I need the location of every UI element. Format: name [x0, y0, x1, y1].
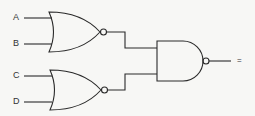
- nor-top-bubble: [101, 29, 107, 35]
- nand-gate: [157, 41, 203, 81]
- nor-bottom-bubble: [102, 87, 108, 93]
- nand-bubble: [203, 58, 209, 64]
- nor-gate-bottom: [50, 70, 101, 110]
- nor-gate-top: [49, 12, 100, 52]
- wire-top-to-nand: [107, 32, 158, 48]
- circuit-svg: [0, 0, 255, 116]
- wire-bottom-to-nand: [108, 74, 158, 90]
